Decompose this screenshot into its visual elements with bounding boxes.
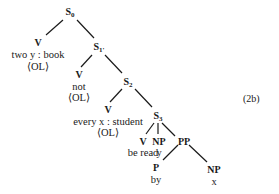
node-np1: NP: [152, 136, 165, 147]
node-v2: V: [75, 69, 82, 80]
node-v1-mark: ⟨OL⟩: [27, 61, 49, 72]
edge-s0-s1: [77, 20, 94, 38]
node-v2-word: not: [72, 81, 85, 92]
node-s2-sub: 2: [129, 81, 133, 89]
node-v3-word: every x : student: [73, 116, 143, 127]
node-s1: S1': [93, 41, 104, 56]
node-v4: V: [139, 136, 146, 147]
node-v3-mark: ⟨OL⟩: [97, 127, 119, 138]
node-s1-sub: 1': [99, 46, 104, 54]
edge-s2-s3: [135, 89, 152, 107]
edge-s1-v: [81, 55, 92, 67]
node-s0: S0: [65, 6, 74, 21]
edge-pp-p: [163, 145, 178, 160]
node-v3: V: [104, 104, 111, 115]
node-v4-word: be read: [128, 147, 159, 158]
edge-s1-s2: [105, 55, 122, 73]
node-v2-mark: ⟨OL⟩: [68, 92, 90, 103]
node-s3-sub: 3: [159, 115, 163, 123]
edge-pp-np: [189, 145, 207, 162]
node-p: P: [153, 162, 159, 173]
node-s3: S3: [153, 110, 162, 125]
node-np2-word: x: [211, 176, 216, 187]
node-v1-word: two y : book: [12, 49, 65, 60]
node-np1-word: y: [156, 147, 161, 158]
node-p-word: by: [151, 174, 162, 185]
node-pp: PP: [178, 136, 190, 147]
tree-edges: [0, 0, 279, 194]
node-s2: S2: [123, 76, 132, 91]
edge-s0-v: [46, 20, 63, 35]
node-np2: NP: [207, 164, 220, 175]
node-v1: V: [34, 37, 41, 48]
example-label: (2b): [243, 93, 260, 104]
edge-s3-pp: [162, 123, 175, 136]
edge-s2-v: [110, 89, 122, 102]
node-s0-sub: 0: [71, 11, 75, 19]
